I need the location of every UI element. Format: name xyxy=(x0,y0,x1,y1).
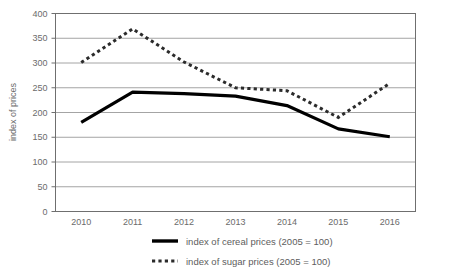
y-axis-title: index of prices xyxy=(8,82,18,141)
y-tick-label: 0 xyxy=(42,207,47,217)
y-axis-ticks xyxy=(52,14,56,212)
y-tick-label: 50 xyxy=(37,182,47,192)
gridlines xyxy=(56,38,416,187)
x-axis-tick-labels: 2010201120122013201420152016 xyxy=(71,217,400,227)
chart-legend: index of cereal prices (2005 = 100) inde… xyxy=(152,236,333,267)
line-chart: 050100150200250300350400 201020112012201… xyxy=(0,0,452,275)
y-tick-label: 150 xyxy=(32,132,47,142)
x-tick-label: 2016 xyxy=(380,217,400,227)
data-series xyxy=(81,29,390,137)
x-tick-label: 2011 xyxy=(123,217,142,227)
legend-label-sugar: index of sugar prices (2005 = 100) xyxy=(186,256,330,267)
series-line-sugar xyxy=(81,29,390,118)
y-tick-label: 300 xyxy=(32,58,47,68)
chart-container: 050100150200250300350400 201020112012201… xyxy=(0,0,452,275)
y-axis-tick-labels: 050100150200250300350400 xyxy=(32,9,47,217)
y-tick-label: 400 xyxy=(32,9,47,19)
legend-label-cereal: index of cereal prices (2005 = 100) xyxy=(186,236,333,247)
y-tick-label: 350 xyxy=(32,33,47,43)
y-tick-label: 100 xyxy=(32,157,47,167)
x-tick-label: 2010 xyxy=(71,217,91,227)
x-tick-label: 2013 xyxy=(225,217,245,227)
x-tick-label: 2014 xyxy=(277,217,297,227)
y-tick-label: 250 xyxy=(32,83,47,93)
x-tick-label: 2012 xyxy=(174,217,194,227)
y-tick-label: 200 xyxy=(32,108,47,118)
x-tick-label: 2015 xyxy=(328,217,348,227)
